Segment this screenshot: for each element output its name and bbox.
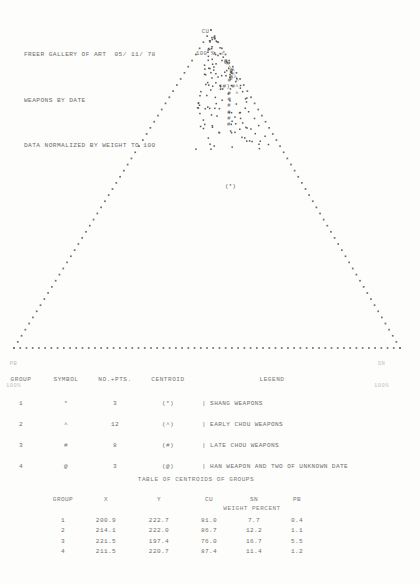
centroid-cell-cu: 81.0 <box>186 513 232 524</box>
centroid-cell-pb: 1.2 <box>276 545 318 556</box>
legend-cell-points: 3 <box>90 456 140 477</box>
legend-cell-group: 1 <box>0 393 42 414</box>
legend-cell-points: 8 <box>90 435 140 456</box>
legend-row: 2^12(^)| EARLY CHOU WEAPONS <box>0 414 348 435</box>
legend-header-legend: LEGEND <box>196 376 348 393</box>
legend-cell-centroid: (#) <box>140 435 196 456</box>
legend-cell-centroid: (^) <box>140 414 196 435</box>
centroid-cell-y: 220.7 <box>132 545 186 556</box>
centroid-header-sn: SN <box>232 496 276 503</box>
centroid-cell-x: 211.5 <box>80 545 132 556</box>
axis-label-pb-element: PB <box>6 360 21 367</box>
centroid-cell-group: 1 <box>46 513 80 524</box>
centroid-header-pb: PB <box>276 496 318 503</box>
centroid-header-cu: CU <box>186 496 232 503</box>
legend-cell-description: | LATE CHOU WEAPONS <box>196 435 348 456</box>
data-point-4-3: @ <box>230 75 233 81</box>
legend-cell-points: 3 <box>90 393 140 414</box>
centroid-cell-pb: 1.1 <box>276 524 318 535</box>
axis-label-cu-element: CU <box>196 28 215 35</box>
centroid-header-group: GROUP <box>46 496 80 503</box>
legend-cell-description: | HAN WEAPON AND TWO OF UNKNOWN DATE <box>196 456 348 477</box>
legend-header-row: GROUP SYMBOL NO.+PTS. CENTROID LEGEND <box>0 376 348 393</box>
axis-label-cu: CU 100 % <box>196 13 215 72</box>
centroid-cell-pb: 0.4 <box>276 513 318 524</box>
data-point-3-5: # <box>227 103 230 109</box>
axis-label-cu-value: 100 % <box>196 50 215 57</box>
legend-cell-group: 4 <box>0 456 42 477</box>
legend-cell-group: 2 <box>0 414 42 435</box>
data-point-2-12: ^ <box>235 91 238 97</box>
legend-cell-symbol: ^ <box>42 414 90 435</box>
centroid-cell-sn: 12.2 <box>232 524 276 535</box>
centroid-row: 3221.5197.476.016.75.5 <box>46 534 318 545</box>
centroid-cell-y: 222.0 <box>132 524 186 535</box>
centroid-cell-sn: 11.4 <box>232 545 276 556</box>
legend-cell-description: | SHANG WEAPONS <box>196 393 348 414</box>
centroid-cell-group: 3 <box>46 534 80 545</box>
legend-table: GROUP SYMBOL NO.+PTS. CENTROID LEGEND 1*… <box>0 376 420 477</box>
centroid-table-title: TABLE OF CENTROIDS OF GROUPS <box>0 476 420 483</box>
legend-row: 4@3(@)| HAN WEAPON AND TWO OF UNKNOWN DA… <box>0 456 348 477</box>
centroid-cell-cu: 86.7 <box>186 524 232 535</box>
legend-cell-description: | EARLY CHOU WEAPONS <box>196 414 348 435</box>
centroid-cell-sn: 7.7 <box>232 513 276 524</box>
legend-cell-points: 12 <box>90 414 140 435</box>
centroid-subheader-row: WEIGHT PERCENT <box>46 503 318 513</box>
data-point-4-2: @ <box>230 68 233 74</box>
data-point-2-11: ^ <box>235 84 238 90</box>
legend-cell-group: 3 <box>0 435 42 456</box>
centroid-cell-x: 200.9 <box>80 513 132 524</box>
data-point-3-2: # <box>231 84 234 90</box>
centroid-header-row: GROUP X Y CU SN PB <box>46 496 318 503</box>
legend-cell-centroid: (*) <box>140 393 196 414</box>
centroid-row: 1200.9222.781.07.70.4 <box>46 513 318 524</box>
legend-row: 3#8(#)| LATE CHOU WEAPONS <box>0 435 348 456</box>
centroid-cell-cu: 76.0 <box>186 534 232 545</box>
centroid-cell-sn: 16.7 <box>232 534 276 545</box>
centroid-cell-pb: 5.5 <box>276 534 318 545</box>
centroid-cell-y: 197.4 <box>132 534 186 545</box>
legend-cell-symbol: @ <box>42 456 90 477</box>
axis-label-sn-element: SN <box>374 360 389 367</box>
centroid-header-y: Y <box>132 496 186 503</box>
centroid-cell-cu: 87.4 <box>186 545 232 556</box>
centroid-subheader-weight-percent: WEIGHT PERCENT <box>186 503 318 513</box>
data-point-4-1: @ <box>224 59 227 65</box>
centroid-cell-group: 2 <box>46 524 80 535</box>
legend-header-symbol: SYMBOL <box>42 376 90 393</box>
centroid-cell-group: 4 <box>46 545 80 556</box>
legend-header-group: GROUP <box>0 376 42 393</box>
legend-cell-symbol: * <box>42 393 90 414</box>
legend-header-centroid: CENTROID <box>140 376 196 393</box>
legend-cell-symbol: # <box>42 435 90 456</box>
centroid-row: 2214.1222.086.712.21.1 <box>46 524 318 535</box>
centroid-cell-x: 221.5 <box>80 534 132 545</box>
centroid-row: 4211.5220.787.411.41.2 <box>46 545 318 556</box>
legend-row: 1*3(*)| SHANG WEAPONS <box>0 393 348 414</box>
centroid-table: TABLE OF CENTROIDS OF GROUPS GROUP X Y C… <box>0 476 420 555</box>
legend-header-points: NO.+PTS. <box>90 376 140 393</box>
centroid-cell-y: 222.7 <box>132 513 186 524</box>
data-point-3-8: # <box>227 122 230 128</box>
centroid-header-x: X <box>80 496 132 503</box>
legend-cell-centroid: (@) <box>140 456 196 477</box>
centroid-cell-x: 214.1 <box>80 524 132 535</box>
centroid-marker-group-1: (*) <box>225 184 236 190</box>
ternary-scatter-plot: CU 100 % PB 100% SN 100% (#) (*) ***^^^^… <box>0 0 420 370</box>
